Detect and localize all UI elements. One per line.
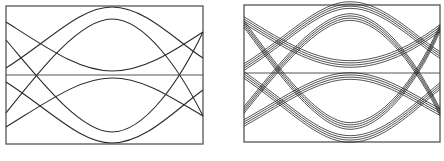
eye-diagram-multi-trace: [244, 2, 440, 143]
eye-diagram-single-trace: [6, 6, 203, 144]
signal-trace: [6, 7, 203, 68]
signal-trace: [244, 76, 440, 140]
signal-trace: [6, 82, 203, 143]
signal-trace: [244, 78, 440, 142]
signal-trace: [6, 22, 203, 71]
signal-trace: [6, 19, 203, 116]
eye-diagram-figure: [0, 0, 444, 161]
